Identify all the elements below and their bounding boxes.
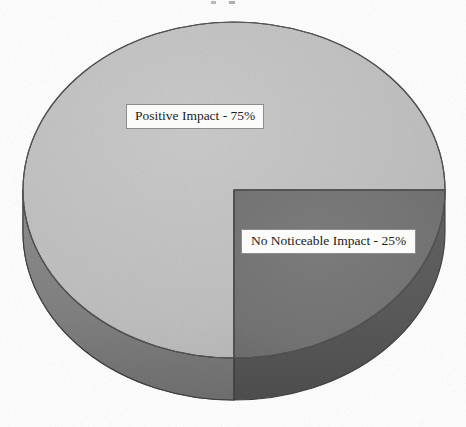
pie-chart-canvas [0,0,466,427]
pie-label-no-noticeable-impact: No Noticeable Impact - 25% [241,229,416,254]
pie-label-positive-impact: Positive Impact - 75% [126,104,264,129]
pie-slice-no-noticeable-impact[interactable] [234,190,445,358]
pie-chart-figure: Positive Impact - 75% No Noticeable Impa… [0,0,466,427]
